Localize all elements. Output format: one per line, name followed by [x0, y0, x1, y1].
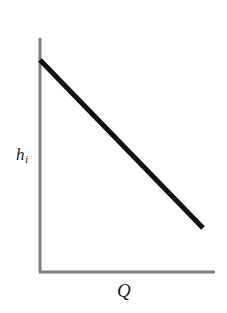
y-axis-label: hi — [16, 146, 28, 165]
x-axis-label: Q — [117, 281, 131, 300]
plot-svg — [0, 0, 227, 313]
y-axis-label-subscript: i — [25, 153, 28, 165]
data-line-series-0 — [40, 60, 203, 228]
data-series-group — [40, 60, 203, 228]
y-axis-label-text: h — [16, 145, 25, 164]
axes-group — [39, 38, 215, 272]
figure-container: hi Q — [0, 0, 227, 313]
